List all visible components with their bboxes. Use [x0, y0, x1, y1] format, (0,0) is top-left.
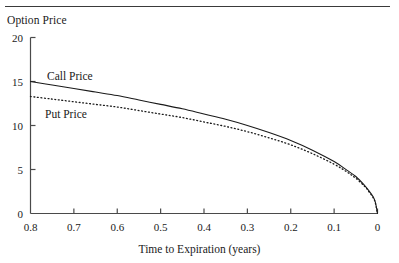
- x-tick-label: 0.5: [147, 221, 175, 233]
- x-tick-label: 0.6: [103, 221, 131, 233]
- y-tick-label: 20: [1, 32, 23, 44]
- x-tick-label: 0.3: [233, 221, 261, 233]
- x-tick-label: 0.1: [320, 221, 348, 233]
- series-curve-call: [31, 82, 378, 214]
- y-tick-label: 0: [1, 208, 23, 220]
- x-axis-title: Time to Expiration (years): [0, 243, 399, 256]
- series-label-call: Call Price: [47, 70, 93, 83]
- x-tick-label: 0.4: [190, 221, 218, 233]
- y-tick-label: 15: [1, 76, 23, 88]
- x-tick-label: 0.8: [17, 221, 45, 233]
- y-tick-label: 5: [1, 164, 23, 176]
- x-tick-label: 0.2: [277, 221, 305, 233]
- figure-container: Option Price Call Price Put Price Time t…: [0, 0, 399, 263]
- x-tick-label: 0.7: [60, 221, 88, 233]
- y-tick-label: 10: [1, 120, 23, 132]
- series-label-put: Put Price: [45, 108, 87, 121]
- x-tick-label: 0: [364, 221, 392, 233]
